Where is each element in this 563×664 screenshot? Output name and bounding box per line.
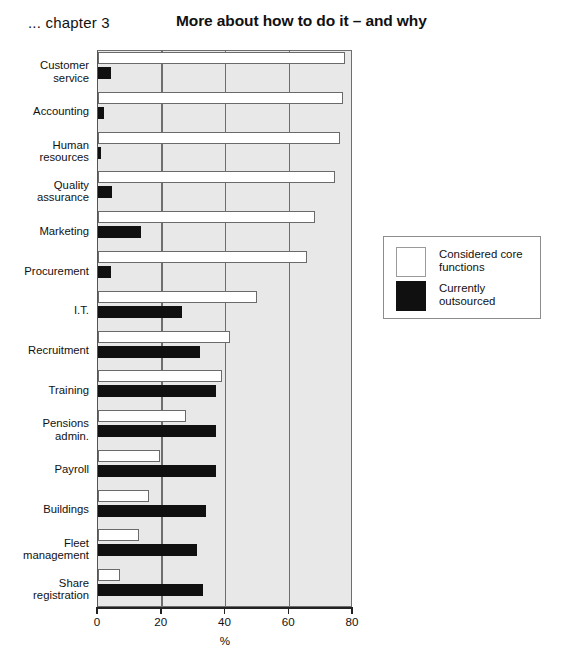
category-label: Marketing <box>0 225 89 238</box>
category-label: Pensionsadmin. <box>0 417 89 442</box>
bar-currently-outsourced <box>98 505 206 517</box>
x-tick-label-40: 40 <box>218 615 231 628</box>
bar-currently-outsourced <box>98 425 216 437</box>
category-label: Shareregistration <box>0 577 89 602</box>
x-tick-0 <box>96 607 98 614</box>
category-label-line: admin. <box>0 430 89 443</box>
legend-entry[interactable]: Currently outsourced <box>396 281 540 311</box>
bar-currently-outsourced <box>98 226 141 238</box>
black-square-icon <box>396 281 426 311</box>
bar-currently-outsourced <box>98 186 112 198</box>
bar-row <box>98 290 351 330</box>
category-label-line: service <box>0 72 89 85</box>
x-tick-40 <box>224 607 226 614</box>
legend-label: Currently outsourced <box>439 281 540 308</box>
category-label: Accounting <box>0 105 89 118</box>
bar-row <box>98 51 351 91</box>
bar-currently-outsourced <box>98 346 200 358</box>
x-tick-20 <box>160 607 162 614</box>
plot-area <box>97 50 352 607</box>
bar-currently-outsourced <box>98 107 104 119</box>
category-label: Qualityassurance <box>0 179 89 204</box>
category-label-line: assurance <box>0 191 89 204</box>
bar-considered-core <box>98 52 345 64</box>
chart-legend: Considered core functionsCurrently outso… <box>383 236 541 319</box>
bar-row <box>98 528 351 568</box>
bar-considered-core <box>98 211 315 223</box>
category-label-line: Fleet <box>0 537 89 550</box>
bar-considered-core <box>98 529 139 541</box>
bar-considered-core <box>98 132 340 144</box>
bar-row <box>98 210 351 250</box>
bar-row <box>98 489 351 529</box>
category-label-line: management <box>0 549 89 562</box>
bar-considered-core <box>98 251 307 263</box>
bar-currently-outsourced <box>98 147 101 159</box>
category-label: Customerservice <box>0 59 89 84</box>
bar-chart: CustomerserviceAccountingHumanresourcesQ… <box>0 48 563 664</box>
x-tick-label-0: 0 <box>94 615 100 628</box>
bar-currently-outsourced <box>98 465 216 477</box>
bar-considered-core <box>98 171 335 183</box>
bar-considered-core <box>98 569 120 581</box>
x-tick-label-20: 20 <box>154 615 167 628</box>
category-label-line: resources <box>0 151 89 164</box>
category-label-line: I.T. <box>0 304 89 317</box>
x-tick-label-80: 80 <box>346 615 359 628</box>
category-label-line: Quality <box>0 179 89 192</box>
white-square-icon <box>396 247 426 277</box>
x-tick-80 <box>351 607 353 614</box>
category-label: Recruitment <box>0 344 89 357</box>
chapter-label: ... chapter 3 <box>28 14 110 31</box>
bar-row <box>98 250 351 290</box>
legend-label: Considered core functions <box>439 247 523 274</box>
bar-rows <box>98 51 351 606</box>
x-axis-title: % <box>220 634 230 647</box>
bar-considered-core <box>98 92 343 104</box>
category-label: Buildings <box>0 503 89 516</box>
bar-currently-outsourced <box>98 544 197 556</box>
category-label-line: Customer <box>0 59 89 72</box>
bar-currently-outsourced <box>98 266 111 278</box>
bar-currently-outsourced <box>98 385 216 397</box>
bar-currently-outsourced <box>98 67 111 79</box>
bar-considered-core <box>98 291 257 303</box>
bar-row <box>98 91 351 131</box>
category-label-line: registration <box>0 589 89 602</box>
category-label-line: Training <box>0 384 89 397</box>
category-label-line: Payroll <box>0 463 89 476</box>
bar-row <box>98 568 351 608</box>
category-label-line: Marketing <box>0 225 89 238</box>
category-label-line: Share <box>0 577 89 590</box>
bar-currently-outsourced <box>98 306 182 318</box>
page-title: More about how to do it – and why <box>176 12 427 30</box>
bar-row <box>98 449 351 489</box>
bar-currently-outsourced <box>98 584 203 596</box>
category-label: Training <box>0 384 89 397</box>
bar-considered-core <box>98 450 160 462</box>
legend-entry[interactable]: Considered core functions <box>396 247 523 277</box>
category-label-line: Pensions <box>0 417 89 430</box>
bar-row <box>98 170 351 210</box>
x-tick-60 <box>288 607 290 614</box>
category-label: I.T. <box>0 304 89 317</box>
bar-considered-core <box>98 370 222 382</box>
category-label-line: Buildings <box>0 503 89 516</box>
category-label: Payroll <box>0 463 89 476</box>
bar-row <box>98 409 351 449</box>
bar-considered-core <box>98 331 230 343</box>
bar-row <box>98 330 351 370</box>
category-label-line: Recruitment <box>0 344 89 357</box>
category-label: Fleetmanagement <box>0 537 89 562</box>
bar-row <box>98 369 351 409</box>
category-label-line: Accounting <box>0 105 89 118</box>
category-label: Humanresources <box>0 139 89 164</box>
bar-considered-core <box>98 490 149 502</box>
bar-considered-core <box>98 410 186 422</box>
category-label-line: Procurement <box>0 265 89 278</box>
bar-row <box>98 131 351 171</box>
x-tick-label-60: 60 <box>282 615 295 628</box>
category-label-line: Human <box>0 139 89 152</box>
page-header: ... chapter 3 More about how to do it – … <box>0 12 563 38</box>
category-label: Procurement <box>0 265 89 278</box>
